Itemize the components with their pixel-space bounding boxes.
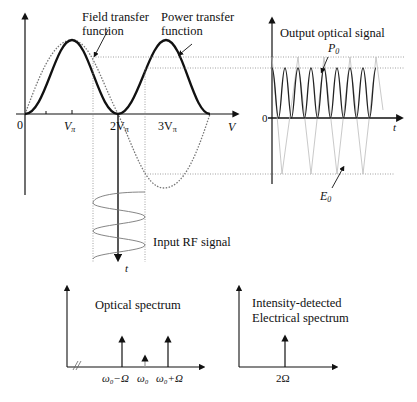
svg-text:t: t <box>393 121 397 133</box>
power-tf-label: Power transfer <box>161 10 235 24</box>
svg-text:ω₀: ω₀ <box>137 372 149 384</box>
field-tf-label: Field transfer <box>82 10 150 24</box>
2v-pi-label: 2Vπ <box>110 119 129 134</box>
power-transfer-curve <box>25 40 210 114</box>
optical-spectrum: Optical spectrum ω₀−Ω ω₀ ω₀+Ω <box>67 288 202 384</box>
input-rf-signal: Input RF signal t <box>93 192 231 274</box>
svg-text:t: t <box>125 262 129 274</box>
svg-text:ω₀−Ω: ω₀−Ω <box>102 372 129 384</box>
svg-text:0: 0 <box>262 112 268 124</box>
input-rf-label: Input RF signal <box>153 235 231 249</box>
electrical-spectrum: Intensity-detected Electrical spectrum 2… <box>239 288 349 384</box>
transfer-function-plot: Field transfer function Power transfer f… <box>16 10 405 262</box>
e0-label: E0 <box>319 189 331 204</box>
svg-text:function: function <box>161 24 203 38</box>
optical-spectrum-title: Optical spectrum <box>95 298 181 312</box>
svg-text:0: 0 <box>17 118 23 132</box>
svg-text:Electrical spectrum: Electrical spectrum <box>252 311 349 325</box>
svg-text:2Ω: 2Ω <box>276 372 290 384</box>
svg-text:ω₀+Ω: ω₀+Ω <box>156 372 183 384</box>
electrical-title: Intensity-detected <box>252 296 342 310</box>
svg-text:function: function <box>82 24 124 38</box>
3v-pi-label: 3Vπ <box>158 119 177 134</box>
output-signal-plot: Output optical signal P0 E0 0 t <box>262 20 400 204</box>
modulator-diagram: Field transfer function Power transfer f… <box>0 0 417 402</box>
output-title: Output optical signal <box>280 26 385 40</box>
v-axis-label: V <box>228 120 237 134</box>
v-pi-label: Vπ <box>64 119 76 134</box>
p0-label: P0 <box>327 41 339 56</box>
